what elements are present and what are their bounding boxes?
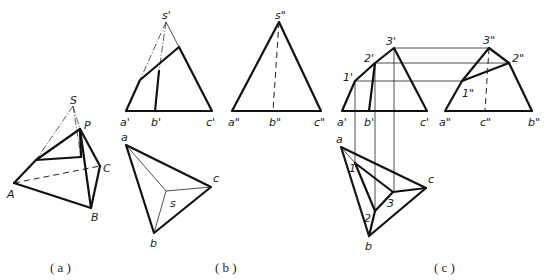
front-edge-b: [155, 71, 159, 111]
label-c-top-c: c: [428, 173, 434, 186]
label-a-side-c: a": [439, 116, 451, 129]
label-P: P: [84, 119, 91, 132]
label-b-top-c: b: [365, 240, 372, 253]
label-b-side: b": [269, 116, 281, 129]
label-b-top: b: [150, 237, 157, 250]
label-S: S: [70, 94, 77, 107]
cut-line: [36, 157, 81, 160]
technical-drawing: S P A B C ( a ) s' a' b' c' s" a" b" c" …: [0, 0, 547, 280]
front-edge-sc-upper: [166, 22, 179, 47]
label-c-front: c': [206, 116, 215, 129]
top-edge-sb: [154, 191, 166, 233]
label-c-side: c": [314, 116, 325, 129]
label-C: C: [103, 162, 111, 175]
label-c-side-c: c": [480, 116, 491, 129]
front-c-edge-b: [369, 63, 375, 111]
label-3-side: 3": [483, 34, 495, 47]
edge-AB: [14, 183, 91, 208]
label-a-top-c: a: [336, 133, 343, 146]
caption-c: ( c ): [434, 260, 455, 275]
top-c-outline: [341, 147, 426, 236]
panel-c-projections: 1' 2' 3' a' b' c' 1" 2" 3" a" c" b" a c …: [336, 34, 540, 275]
caption-b: ( b ): [215, 260, 237, 275]
label-2-front: 2': [364, 52, 374, 65]
label-b-side-c: b": [528, 116, 540, 129]
edge-SP: [73, 106, 80, 129]
label-B: B: [91, 211, 99, 224]
label-3-front: 3': [386, 35, 396, 48]
label-c-front-c: c': [420, 116, 429, 129]
label-s-top: s: [170, 197, 176, 210]
caption-a: ( a ): [50, 260, 71, 275]
label-1-top: 1: [349, 162, 356, 175]
label-b-front: b': [151, 116, 161, 129]
label-c-top: c: [213, 172, 219, 185]
label-1-side: 1": [462, 87, 474, 100]
edge-CB: [91, 166, 100, 208]
label-a-top: a: [121, 131, 128, 144]
top-outline: [126, 145, 211, 233]
label-A: A: [6, 188, 15, 201]
label-3-top: 3: [387, 197, 394, 210]
top-edge-sa: [126, 145, 166, 191]
label-a-side: a": [228, 116, 240, 129]
label-b-front-c: b': [364, 116, 374, 129]
label-s-front: s': [162, 9, 171, 22]
side-hidden-edge: [273, 22, 279, 111]
panel-a-pictorial: S P A B C ( a ): [6, 94, 111, 275]
label-s-side: s": [275, 9, 286, 22]
label-1-front: 1': [343, 71, 353, 84]
top-edge-sc: [166, 187, 211, 191]
edge-A-cut-P: [14, 129, 80, 183]
label-2-side: 2": [512, 52, 524, 65]
label-a-front: a': [120, 116, 130, 129]
side-c-hidden: [485, 48, 489, 111]
label-a-front-c: a': [337, 116, 347, 129]
front-outline: [126, 47, 212, 111]
panel-b-three-views: s' a' b' c' s" a" b" c" a c b s ( b ): [120, 9, 325, 275]
label-2-top: 2: [364, 212, 371, 225]
edge-SA-upper: [36, 106, 73, 160]
